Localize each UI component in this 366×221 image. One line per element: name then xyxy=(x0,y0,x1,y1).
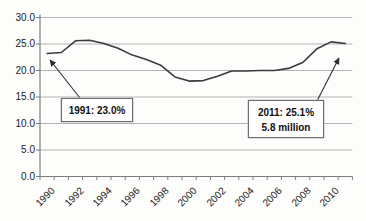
y-axis-label: 0.0 xyxy=(0,171,35,182)
callout-2011: 2011: 25.1% 5.8 million xyxy=(248,100,324,138)
callout-2011-text-line1: 2011: 25.1% xyxy=(249,105,323,120)
callout-1991-text: 1991: 23.0% xyxy=(62,103,132,118)
data-series-line xyxy=(47,40,345,81)
line-chart-figure: 0.05.010.015.020.025.030.0 1990199219941… xyxy=(0,0,366,221)
y-axis-label: 10.0 xyxy=(0,118,35,129)
callout-arrow-1991 xyxy=(50,60,80,98)
y-axis-label: 25.0 xyxy=(0,38,35,49)
series-polyline xyxy=(47,40,345,81)
y-axis-label: 30.0 xyxy=(0,12,35,23)
y-axis-label: 5.0 xyxy=(0,144,35,155)
callout-2011-text-line2: 5.8 million xyxy=(249,120,323,135)
y-axis-label: 15.0 xyxy=(0,91,35,102)
callout-1991: 1991: 23.0% xyxy=(61,98,133,122)
y-axis-label: 20.0 xyxy=(0,65,35,76)
callout-arrow-2011 xyxy=(317,58,339,101)
